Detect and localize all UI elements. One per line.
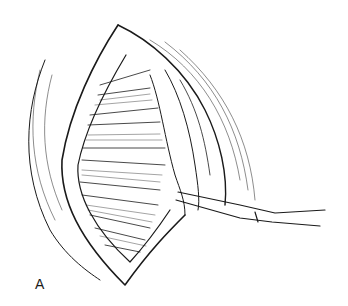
surgical-illustration: A — [0, 0, 348, 306]
skin-outline-left — [29, 60, 100, 280]
wound-inner-edge — [78, 55, 170, 262]
illustration-drawing — [0, 0, 348, 306]
panel-label: A — [35, 276, 44, 292]
incision-right-edge — [118, 25, 226, 205]
tissue-lobe — [150, 75, 185, 215]
